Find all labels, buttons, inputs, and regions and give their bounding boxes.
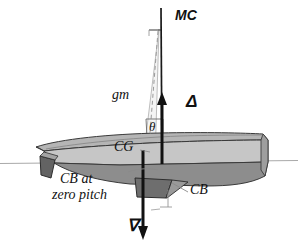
label-zero-pitch: zero pitch [52, 188, 107, 203]
stability-diagram: MC gm Δ θ CG CB at zero pitch CB ∇ [0, 0, 298, 252]
label-buoyancy-force: Δ [186, 93, 197, 111]
label-center-of-buoyancy: CB [190, 183, 208, 198]
label-center-of-gravity: CG [114, 140, 133, 155]
label-cb-at: CB at [60, 172, 92, 187]
label-metacenter: MC [175, 8, 197, 23]
hull-transom [261, 134, 268, 176]
nabla-top-tick [151, 209, 160, 210]
label-pitch-angle: θ [149, 120, 155, 134]
keel-fin [135, 178, 172, 198]
label-metacentric-height: gm [112, 88, 129, 103]
buoyancy-force-arrow-head [157, 92, 167, 105]
displacement-weight-arrow-head [138, 226, 148, 240]
label-displacement-volume: ∇ [127, 217, 138, 235]
